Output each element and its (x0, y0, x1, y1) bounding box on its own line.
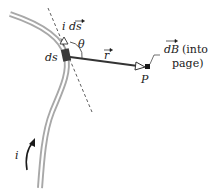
theta-label: θ (78, 39, 85, 50)
db-note-line2: page) (172, 58, 203, 69)
point-p-marker (145, 64, 150, 69)
r-label: r (104, 50, 109, 61)
current-element-ds (61, 48, 71, 61)
current-arrow (26, 142, 33, 170)
current-label: i (15, 150, 19, 161)
db-label: dB (164, 44, 179, 55)
db-leader-line (150, 55, 160, 64)
wire (10, 14, 67, 188)
db-note-line1: (into (182, 44, 208, 55)
r-arrowhead (135, 62, 145, 70)
vector-overarrows (75, 20, 178, 52)
ds-label: ds (45, 52, 58, 63)
ids-label: i ds (62, 21, 82, 32)
p-label: P (141, 74, 148, 85)
biot-savart-diagram (0, 0, 223, 194)
